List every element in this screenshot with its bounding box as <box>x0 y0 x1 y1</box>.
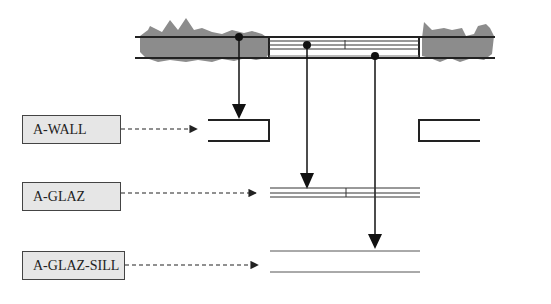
arrowhead-wall <box>232 104 246 119</box>
dashed-connectors <box>121 129 258 265</box>
window-plan <box>269 40 419 56</box>
layer-label-a-wall: A-WALL <box>22 115 121 144</box>
layer-label-text: A-GLAZ-SILL <box>33 258 119 274</box>
wall-hatch-left <box>140 18 270 62</box>
layer-label-text: A-WALL <box>33 122 87 138</box>
layer-glaz-geometry <box>270 188 420 197</box>
layer-wall-geometry <box>208 120 480 141</box>
layer-label-text: A-GLAZ <box>33 189 85 205</box>
plan-view <box>135 18 495 62</box>
wall-hatch-right <box>422 22 494 62</box>
layer-sill-geometry <box>270 251 420 272</box>
arrowhead-sill <box>368 234 382 249</box>
arrowhead-glaz <box>300 173 314 189</box>
layer-label-a-glaz-sill: A-GLAZ-SILL <box>22 251 125 280</box>
layer-label-a-glaz: A-GLAZ <box>22 182 121 211</box>
